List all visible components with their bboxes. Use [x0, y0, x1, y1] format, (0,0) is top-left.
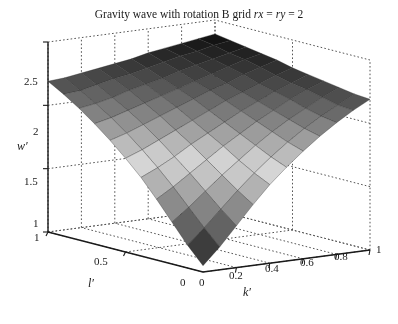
tick-label-x: 0.2: [229, 270, 243, 281]
plot-title-suffix: = 2: [285, 8, 303, 20]
figure-3d-surface-plot: Gravity wave with rotation B grid rx = r…: [0, 0, 398, 324]
axis-label-y: l′: [88, 277, 94, 289]
tick-label-y: 1: [34, 232, 40, 243]
tick-label-y: 0.5: [94, 256, 108, 267]
tick-label-z: 2.5: [24, 76, 38, 87]
tick-label-x: 0.8: [334, 251, 348, 262]
tick-label-x: 0: [199, 277, 205, 288]
tick-label-x: 0.4: [265, 263, 279, 274]
tick-label-z: 1: [33, 218, 39, 229]
tick-label-y: 0: [180, 277, 186, 288]
tick-label-x: 0.6: [300, 257, 314, 268]
plot-title-ry: ry: [276, 8, 286, 20]
plot-title-rx: rx: [254, 8, 264, 20]
plot-title: Gravity wave with rotation B grid rx = r…: [0, 9, 398, 21]
axis-label-x: k′: [243, 286, 251, 298]
plot-title-prefix: Gravity wave with rotation B grid: [95, 8, 254, 20]
tick-label-z: 2: [33, 126, 39, 137]
axis-label-z: w′: [17, 140, 28, 152]
tick-label-x: 1: [376, 244, 382, 255]
plot-title-eq1: =: [263, 8, 275, 20]
tick-label-z: 1.5: [24, 176, 38, 187]
